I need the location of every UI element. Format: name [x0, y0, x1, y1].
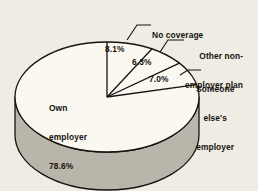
- slice-label-someone-else-line2: else's: [196, 114, 234, 124]
- slice-value-other-plan: 6.3%: [132, 57, 152, 67]
- slice-label-own-employer-line2: employer: [49, 133, 87, 143]
- slice-label-own-employer: Own employer 78.6%: [49, 85, 87, 191]
- slice-value-no-coverage: 8.1%: [105, 44, 125, 54]
- slice-label-someone-else: Someone else's employer: [196, 66, 234, 172]
- slice-value-someone-else: 7.0%: [149, 74, 169, 84]
- slice-label-someone-else-line3: employer: [196, 143, 234, 153]
- slice-label-someone-else-line1: Someone: [196, 85, 234, 95]
- pie-chart-figure: No coverage Other non- employer plan Som…: [0, 0, 258, 191]
- slice-label-other-plan-line1: Other non-: [185, 52, 243, 62]
- slice-label-own-employer-line1: Own: [49, 104, 87, 114]
- slice-label-own-employer-value: 78.6%: [49, 162, 87, 172]
